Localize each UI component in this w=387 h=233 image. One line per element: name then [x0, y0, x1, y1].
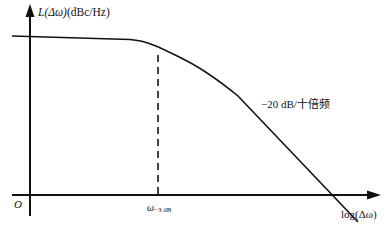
origin-label: O [14, 198, 22, 210]
y-axis-arrow-icon [26, 4, 35, 17]
phase-noise-diagram [0, 0, 387, 233]
minus-3db-frequency-label: ω−3 dB [147, 202, 171, 214]
y-axis-label: L(Δω)(dBc/Hz) [38, 6, 110, 18]
x-axis-label: log(Δω) [341, 208, 377, 220]
x-axis-arrow-icon [367, 191, 381, 200]
slope-annotation: −20 dB/十倍频 [261, 95, 330, 111]
